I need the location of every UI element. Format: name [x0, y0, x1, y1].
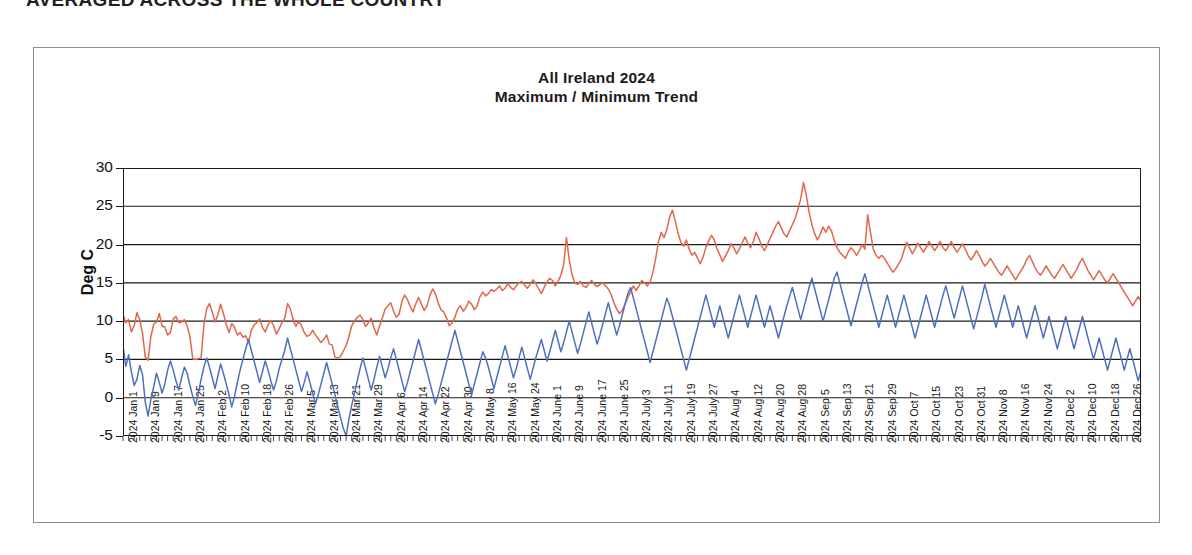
- y-tick-label: 15: [67, 273, 113, 291]
- y-tick-mark: [116, 206, 123, 207]
- y-tick-label: 10: [67, 311, 113, 329]
- chart-title-line-1: All Ireland 2024: [34, 68, 1159, 87]
- plot-frame: [123, 168, 1141, 436]
- y-tick-mark: [116, 245, 123, 246]
- y-tick-mark: [116, 359, 123, 360]
- y-tick-label: 0: [67, 388, 113, 406]
- x-axis-minor-ticks: [34, 436, 1161, 450]
- y-tick-mark: [116, 398, 123, 399]
- y-tick-label: 5: [67, 349, 113, 367]
- y-tick-label: 30: [67, 158, 113, 176]
- chart-title: All Ireland 2024 Maximum / Minimum Trend: [34, 68, 1159, 106]
- page-heading: AVERAGED ACROSS THE WHOLE COUNTRY: [26, 0, 446, 11]
- y-tick-label: 25: [67, 196, 113, 214]
- chart-title-line-2: Maximum / Minimum Trend: [34, 87, 1159, 106]
- chart-figure-frame: All Ireland 2024 Maximum / Minimum Trend…: [33, 47, 1160, 523]
- y-tick-mark: [116, 168, 123, 169]
- y-tick-label: 20: [67, 235, 113, 253]
- y-tick-mark: [116, 321, 123, 322]
- y-tick-mark: [116, 283, 123, 284]
- plot-area: [123, 168, 1141, 436]
